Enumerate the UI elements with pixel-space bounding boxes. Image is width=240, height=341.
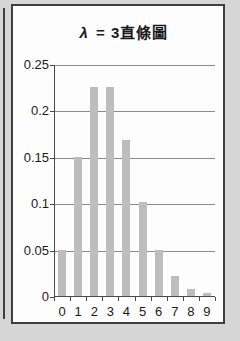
x-tick-1 (70, 297, 71, 301)
y-tick-label-0.25: 0.25 (9, 57, 49, 72)
bar-7 (171, 276, 179, 296)
x-tick-2 (86, 297, 87, 301)
gridline-0.2 (54, 111, 215, 112)
y-axis-line (54, 65, 55, 297)
x-tick-3 (102, 297, 103, 301)
x-tick-0 (54, 297, 55, 301)
gridline-0.25 (54, 65, 215, 66)
x-tick-4 (118, 297, 119, 301)
x-tick-9 (199, 297, 200, 301)
bar-2 (90, 87, 98, 296)
chart-card: λ = 3直條圖 00.050.10.150.20.250123456789 (11, 4, 225, 324)
adjacent-panel-edge (3, 8, 5, 319)
bar-1 (74, 157, 82, 296)
y-tick-label-0.2: 0.2 (9, 103, 49, 118)
y-tick-label-0.15: 0.15 (9, 150, 49, 165)
bar-0 (58, 250, 66, 296)
x-tick-5 (135, 297, 136, 301)
chart-title-lambda: λ (80, 24, 89, 41)
screen: λ = 3直條圖 00.050.10.150.20.250123456789 (0, 0, 240, 341)
bar-5 (139, 202, 147, 296)
bar-4 (122, 140, 130, 296)
x-tick-6 (151, 297, 152, 301)
bar-3 (106, 87, 114, 296)
y-tick-label-0: 0 (9, 289, 49, 304)
x-tick-label-9: 9 (197, 304, 217, 319)
bar-6 (155, 250, 163, 296)
x-tick-7 (167, 297, 168, 301)
x-tick-8 (183, 297, 184, 301)
x-tick-10 (215, 297, 216, 301)
chart-title-text: = 3直條圖 (96, 24, 168, 41)
chart-title: λ = 3直條圖 (13, 21, 223, 42)
y-tick-label-0.1: 0.1 (9, 196, 49, 211)
y-tick-label-0.05: 0.05 (9, 243, 49, 258)
bar-8 (187, 289, 195, 296)
plot-area: 00.050.10.150.20.250123456789 (54, 65, 215, 297)
